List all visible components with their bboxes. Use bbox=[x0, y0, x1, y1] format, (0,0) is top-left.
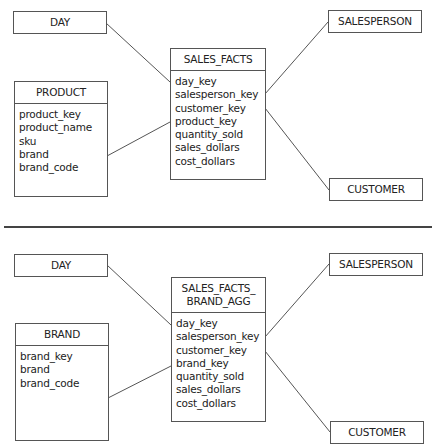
sales-facts-brand-agg-title-line1: SALES_FACTS_ bbox=[182, 282, 256, 295]
field-item: product_key bbox=[175, 115, 265, 128]
sales-facts-brand-agg-header: SALES_FACTS_ BRAND_AGG bbox=[172, 278, 265, 313]
field-item: brand bbox=[19, 148, 107, 161]
field-item: sales_dollars bbox=[176, 383, 265, 396]
link-sales-facts-to-salesperson bbox=[265, 22, 328, 94]
sales-facts-table-fields: day_key salesperson_key customer_key pro… bbox=[171, 71, 265, 168]
product-table: PRODUCT product_key product_name sku bra… bbox=[14, 81, 108, 197]
sales-facts-table: SALES_FACTS day_key salesperson_key cust… bbox=[170, 48, 266, 180]
sales-facts-table-header: SALES_FACTS bbox=[171, 49, 265, 71]
link-product-to-sales-facts bbox=[107, 122, 170, 156]
field-item: quantity_sold bbox=[176, 370, 265, 383]
sales-facts-table-title: SALES_FACTS bbox=[184, 53, 253, 66]
field-item: cost_dollars bbox=[175, 155, 265, 168]
day-table-agg: DAY bbox=[14, 254, 108, 277]
field-item: product_name bbox=[19, 121, 107, 134]
section-divider bbox=[4, 226, 432, 228]
field-item: brand_code bbox=[19, 161, 107, 174]
field-item: brand_code bbox=[20, 377, 108, 390]
field-item: brand_key bbox=[176, 357, 265, 370]
sales-facts-brand-agg-table: SALES_FACTS_ BRAND_AGG day_key salespers… bbox=[171, 277, 266, 422]
field-item: day_key bbox=[176, 317, 265, 330]
brand-table-title: BRAND bbox=[44, 328, 80, 341]
customer-table: CUSTOMER bbox=[329, 178, 423, 201]
sales-facts-brand-agg-title-line2: BRAND_AGG bbox=[187, 295, 251, 308]
salesperson-table: SALESPERSON bbox=[328, 10, 422, 33]
field-item: customer_key bbox=[176, 344, 265, 357]
field-item: cost_dollars bbox=[176, 397, 265, 410]
link-day-to-brand-agg bbox=[107, 265, 171, 325]
product-table-fields: product_key product_name sku brand brand… bbox=[15, 104, 107, 174]
link-brand-to-brand-agg bbox=[108, 366, 171, 398]
customer-table-agg-title: CUSTOMER bbox=[348, 426, 406, 439]
field-item: customer_key bbox=[175, 102, 265, 115]
day-table-title: DAY bbox=[50, 16, 70, 29]
salesperson-table-title: SALESPERSON bbox=[338, 15, 412, 28]
day-table: DAY bbox=[13, 11, 107, 34]
brand-table-header: BRAND bbox=[16, 324, 108, 346]
field-item: quantity_sold bbox=[175, 128, 265, 141]
field-item: brand_key bbox=[20, 350, 108, 363]
field-item: brand bbox=[20, 363, 108, 376]
brand-table-fields: brand_key brand brand_code bbox=[16, 346, 108, 390]
salesperson-table-agg: SALESPERSON bbox=[329, 253, 423, 276]
product-table-title: PRODUCT bbox=[36, 86, 86, 99]
link-brand-agg-to-customer bbox=[265, 351, 330, 432]
customer-table-title: CUSTOMER bbox=[347, 183, 405, 196]
product-table-header: PRODUCT bbox=[15, 82, 107, 104]
brand-table: BRAND brand_key brand brand_code bbox=[15, 323, 109, 441]
field-item: day_key bbox=[175, 75, 265, 88]
link-brand-agg-to-salesperson bbox=[265, 264, 329, 337]
field-item: sku bbox=[19, 135, 107, 148]
link-sales-facts-to-customer bbox=[265, 108, 329, 190]
link-day-to-sales-facts bbox=[106, 23, 170, 82]
sales-facts-brand-agg-fields: day_key salesperson_key customer_key bra… bbox=[172, 313, 265, 410]
salesperson-table-agg-title: SALESPERSON bbox=[339, 258, 413, 271]
field-item: salesperson_key bbox=[175, 88, 265, 101]
day-table-agg-title: DAY bbox=[51, 259, 71, 272]
customer-table-agg: CUSTOMER bbox=[330, 421, 424, 444]
field-item: salesperson_key bbox=[176, 330, 265, 343]
field-item: sales_dollars bbox=[175, 141, 265, 154]
field-item: product_key bbox=[19, 108, 107, 121]
